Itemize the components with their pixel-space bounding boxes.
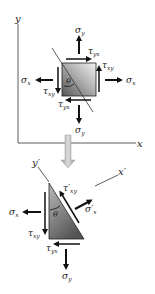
tau-xy-right-label: τxy xyxy=(102,60,114,72)
stress-transformation-diagram: y x θ σy σy σx σx τyx τyx τxy τxy y′ x′ … xyxy=(0,0,155,294)
sigma-y-label: σy xyxy=(62,271,72,283)
theta-label-bottom: θ xyxy=(53,210,58,219)
sigma-y-bottom-label: σy xyxy=(75,125,85,137)
tau-yx-top-label: τyx xyxy=(88,46,100,58)
tau-yx-bottom-label: τyx xyxy=(58,99,70,111)
y-prime-axis xyxy=(38,167,49,182)
axis-y-label: y xyxy=(14,13,21,24)
theta-label: θ xyxy=(66,77,71,86)
x-prime-axis xyxy=(95,175,118,186)
x-prime-label: x′ xyxy=(118,166,127,177)
sigma-x-prime-label: σ′x xyxy=(85,204,97,215)
y-prime-label: y′ xyxy=(31,157,41,168)
sigma-x-label: σx xyxy=(9,207,19,218)
sigma-x-left-label: σx xyxy=(21,75,31,86)
tau-yx-label: τyx xyxy=(46,243,58,255)
tau-xy-prime-label: τ′xy xyxy=(63,183,77,195)
sigma-x-right-label: σx xyxy=(126,75,136,86)
transition-arrow-icon xyxy=(61,135,75,168)
tau-xy-label: τxy xyxy=(28,228,40,240)
sigma-y-top-label: σy xyxy=(75,25,85,37)
tau-xy-left-label: τxy xyxy=(43,86,55,98)
axis-x-label: x xyxy=(137,138,143,149)
